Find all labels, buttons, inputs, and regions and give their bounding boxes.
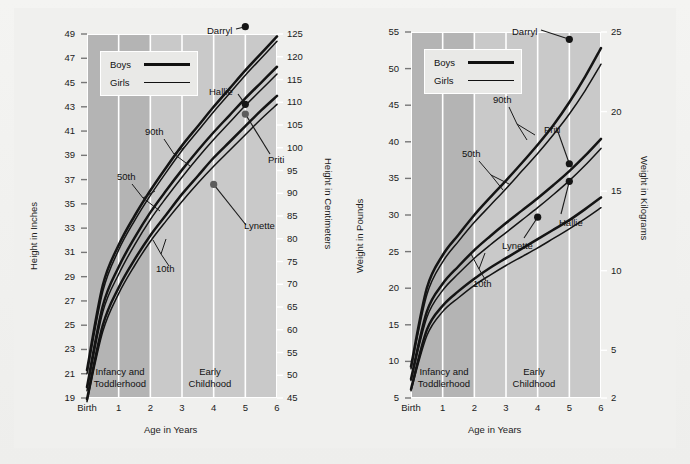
left-tick-35: 35 [365, 172, 399, 183]
stage-label-early-childhood: Early Childhood [182, 366, 238, 389]
weight-chart: Weight in Pounds Weight in Kilograms Age… [345, 8, 676, 448]
point-label-hallie: Hallie [209, 86, 233, 97]
point-label-lynette: Lynette [244, 220, 275, 231]
legend-line-girls [468, 80, 514, 82]
percentile-label-10th: 10th [156, 263, 175, 274]
right-tick-105: 105 [287, 119, 317, 130]
left-tick-19: 19 [41, 392, 75, 403]
height-x-axis-title: Age in Years [144, 424, 197, 435]
stage-label-early-childhood: Early Childhood [506, 366, 562, 389]
left-tick-45: 45 [365, 99, 399, 110]
right-tick-70: 70 [287, 278, 317, 289]
legend-row-girls: Girls [110, 77, 190, 88]
height-chart: Height in Inches Height in Centimeters A… [14, 8, 345, 448]
height-left-axis-title: Height in Inches [28, 202, 39, 270]
right-tick-110: 110 [287, 96, 317, 107]
right-tick-125: 125 [287, 28, 317, 39]
stage-label-infancy: Infancy and Toddlerhood [92, 366, 148, 389]
right-tick-5: 5 [611, 344, 641, 355]
right-tick-115: 115 [287, 74, 317, 85]
left-tick-27: 27 [41, 295, 75, 306]
point-label-priti: Priti [544, 124, 560, 135]
left-tick-25: 25 [41, 319, 75, 330]
page-background: Height in Inches Height in Centimeters A… [0, 0, 690, 464]
weight-x-axis-title: Age in Years [468, 424, 521, 435]
right-tick-2: 2 [611, 392, 641, 403]
point-label-darryl: Darryl [207, 25, 232, 36]
stage-early-line2: Childhood [513, 378, 556, 389]
weight-right-axis-title: Weight in Kilograms [639, 156, 650, 240]
right-tick-10: 10 [611, 265, 641, 276]
legend-line-boys [468, 61, 514, 64]
point-label-lynette: Lynette [502, 240, 533, 251]
left-tick-23: 23 [41, 343, 75, 354]
height-right-axis-title: Height in Centimeters [323, 158, 334, 249]
height-legend: Boys Girls [100, 51, 198, 96]
percentile-label-50th: 50th [117, 171, 136, 182]
stage-infancy-line1: Infancy and [95, 366, 144, 377]
right-tick-25: 25 [611, 26, 641, 37]
stage-early-line2: Childhood [189, 378, 232, 389]
right-tick-95: 95 [287, 165, 317, 176]
point-label-hallie: Hallie [559, 217, 583, 228]
left-tick-43: 43 [41, 101, 75, 112]
x-tick-6: 6 [253, 402, 301, 413]
right-tick-55: 55 [287, 347, 317, 358]
growth-charts-figure: Height in Inches Height in Centimeters A… [14, 8, 676, 448]
left-tick-30: 30 [365, 209, 399, 220]
right-tick-15: 15 [611, 185, 641, 196]
left-tick-29: 29 [41, 271, 75, 282]
right-tick-75: 75 [287, 256, 317, 267]
legend-line-boys [144, 63, 190, 66]
right-tick-20: 20 [611, 106, 641, 117]
legend-row-boys: Boys [434, 57, 514, 68]
point-label-darryl: Darryl [512, 26, 537, 37]
legend-row-boys: Boys [110, 59, 190, 70]
right-tick-80: 80 [287, 233, 317, 244]
right-tick-120: 120 [287, 51, 317, 62]
left-tick-55: 55 [365, 26, 399, 37]
left-tick-37: 37 [41, 174, 75, 185]
left-tick-39: 39 [41, 149, 75, 160]
left-tick-45: 45 [41, 77, 75, 88]
left-tick-33: 33 [41, 222, 75, 233]
right-tick-65: 65 [287, 301, 317, 312]
percentile-label-90th: 90th [493, 94, 512, 105]
x-tick-6: 6 [577, 402, 625, 413]
stage-label-infancy: Infancy and Toddlerhood [416, 366, 472, 389]
legend-label-boys: Boys [434, 57, 461, 68]
legend-row-girls: Girls [434, 75, 514, 86]
right-tick-60: 60 [287, 324, 317, 335]
right-tick-90: 90 [287, 187, 317, 198]
weight-left-axis-title: Weight in Pounds [354, 199, 365, 273]
left-tick-41: 41 [41, 125, 75, 136]
stage-early-line1: Early [199, 366, 221, 377]
point-label-priti: Priti [268, 154, 284, 165]
legend-label-girls: Girls [110, 77, 137, 88]
left-tick-20: 20 [365, 282, 399, 293]
left-tick-10: 10 [365, 355, 399, 366]
right-tick-50: 50 [287, 369, 317, 380]
percentile-label-90th: 90th [145, 126, 164, 137]
percentile-label-50th: 50th [462, 148, 481, 159]
left-tick-50: 50 [365, 63, 399, 74]
right-tick-85: 85 [287, 210, 317, 221]
left-tick-25: 25 [365, 246, 399, 257]
left-tick-21: 21 [41, 368, 75, 379]
left-tick-5: 5 [365, 392, 399, 403]
left-tick-31: 31 [41, 246, 75, 257]
legend-label-girls: Girls [434, 75, 461, 86]
weight-legend: Boys Girls [424, 49, 522, 94]
stage-infancy-line2: Toddlerhood [94, 378, 146, 389]
right-tick-100: 100 [287, 142, 317, 153]
left-tick-47: 47 [41, 52, 75, 63]
left-tick-40: 40 [365, 136, 399, 147]
left-tick-49: 49 [41, 28, 75, 39]
stage-early-line1: Early [523, 366, 545, 377]
right-tick-45: 45 [287, 392, 317, 403]
legend-line-girls [144, 82, 190, 84]
legend-label-boys: Boys [110, 59, 137, 70]
left-tick-15: 15 [365, 319, 399, 330]
stage-infancy-line2: Toddlerhood [418, 378, 470, 389]
percentile-label-10th: 10th [473, 278, 492, 289]
